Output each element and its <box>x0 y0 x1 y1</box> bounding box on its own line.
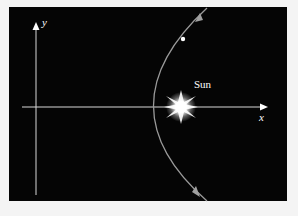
x-axis-arrow-icon <box>260 104 268 111</box>
x-axis <box>22 104 268 111</box>
y-axis-label: y <box>41 16 47 28</box>
x-axis-label: x <box>258 111 264 123</box>
y-axis-arrow-icon <box>33 22 40 30</box>
y-axis <box>33 22 40 195</box>
orbit-diagram: y x Sun <box>0 0 298 216</box>
sun-label: Sun <box>194 78 212 90</box>
comet-point <box>181 37 185 41</box>
orbit-direction-arrow-icon <box>195 13 203 22</box>
sun-icon <box>164 90 198 124</box>
